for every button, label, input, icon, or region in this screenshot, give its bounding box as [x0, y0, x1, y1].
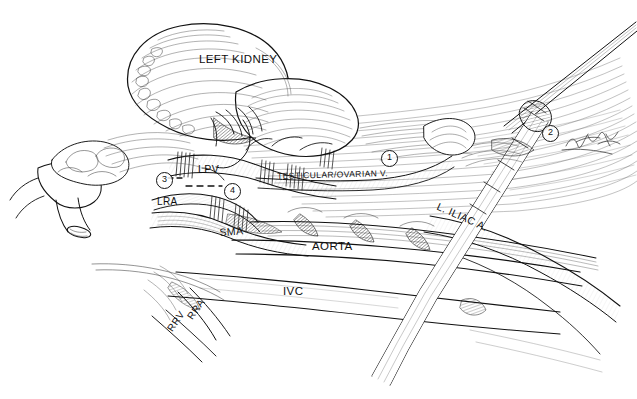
instrument-tissue-contact	[460, 298, 486, 315]
label-sma: SMA	[219, 224, 244, 238]
callout-marker-1: 1	[381, 150, 398, 167]
anatomy-line-drawing	[0, 0, 637, 399]
callout-marker-4: 4	[224, 183, 241, 200]
callout-marker-2: 2	[542, 125, 559, 142]
label-aorta: AORTA	[312, 240, 353, 252]
label-ivc: IVC	[283, 285, 303, 297]
label-left-kidney: LEFT KIDNEY	[199, 53, 277, 65]
label-lpv: LPV	[198, 163, 219, 175]
illustration-canvas: LEFT KIDNEY LPV TESTICULAR/OVARIAN V. LR…	[0, 0, 637, 399]
label-lra: LRA	[157, 196, 178, 207]
inferior-vena-cava	[168, 272, 560, 334]
gonadal-vessel-coil	[424, 119, 475, 156]
dashed-transection-line	[168, 178, 222, 186]
lumbar-vessels	[288, 208, 434, 251]
left-kidney-shape	[128, 24, 359, 168]
posterior-body-wall	[92, 264, 224, 300]
callout-marker-3: 3	[156, 172, 173, 189]
